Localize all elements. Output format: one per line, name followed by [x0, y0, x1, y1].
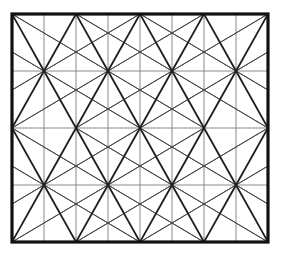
geometric-diagram: [0, 0, 284, 260]
thick-line: [140, 14, 172, 71]
thick-line: [172, 185, 204, 242]
thick-line: [44, 71, 76, 128]
thick-line: [108, 185, 140, 242]
thick-line: [236, 71, 268, 128]
thick-line: [172, 128, 204, 185]
thick-line: [204, 71, 236, 128]
thick-line: [236, 14, 268, 71]
thick-line: [44, 128, 76, 185]
thick-line: [204, 128, 236, 185]
thick-line: [204, 185, 236, 242]
thick-line: [12, 128, 44, 185]
thick-line: [76, 185, 108, 242]
thick-line: [108, 14, 140, 71]
thick-line: [108, 71, 140, 128]
thick-line: [76, 14, 108, 71]
thick-line: [44, 14, 76, 71]
thick-line: [12, 14, 44, 71]
thick-line: [172, 71, 204, 128]
thick-line: [140, 128, 172, 185]
thick-line: [140, 71, 172, 128]
thick-line: [12, 185, 44, 242]
thick-line: [76, 71, 108, 128]
thick-line: [236, 128, 268, 185]
thick-line: [140, 185, 172, 242]
thick-line: [172, 14, 204, 71]
thick-line: [44, 185, 76, 242]
thick-line: [108, 128, 140, 185]
thick-line: [236, 185, 268, 242]
thick-line: [204, 14, 236, 71]
thick-line: [12, 71, 44, 128]
thick-line: [76, 128, 108, 185]
